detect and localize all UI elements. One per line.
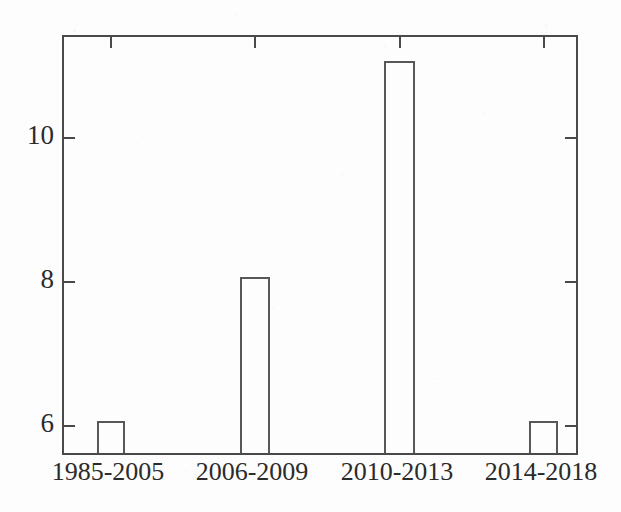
plot-frame xyxy=(62,35,578,455)
y-axis-tick xyxy=(64,137,75,139)
y-axis-tick xyxy=(565,281,576,283)
x-axis-tick-label: 2006-2009 xyxy=(196,459,309,485)
y-axis-tick-label: 10 xyxy=(27,122,54,149)
x-axis-tick xyxy=(110,37,112,48)
x-axis-tick-label: 1985-2005 xyxy=(52,459,165,485)
y-axis-tick-label: 6 xyxy=(41,410,55,437)
bar xyxy=(529,421,558,453)
x-axis-tick-label: 2010-2013 xyxy=(341,459,454,485)
y-axis-tick xyxy=(64,281,75,283)
chart-page: 6810 1985-20052006-20092010-20132014-201… xyxy=(0,0,621,512)
y-axis-tick xyxy=(565,137,576,139)
x-axis-tick xyxy=(399,37,401,48)
bar xyxy=(240,277,270,453)
bar xyxy=(384,61,415,453)
x-axis-tick-label: 2014-2018 xyxy=(485,459,598,485)
y-axis-tick xyxy=(565,425,576,427)
y-axis-tick-label: 8 xyxy=(41,266,55,293)
y-axis-tick-labels: 6810 xyxy=(0,35,54,455)
x-axis-tick xyxy=(543,37,545,48)
bar xyxy=(97,421,125,453)
plot-area xyxy=(64,37,576,453)
x-axis-tick-labels: 1985-20052006-20092010-20132014-2018 xyxy=(62,459,578,499)
y-axis-tick xyxy=(64,425,75,427)
x-axis-tick xyxy=(254,37,256,48)
